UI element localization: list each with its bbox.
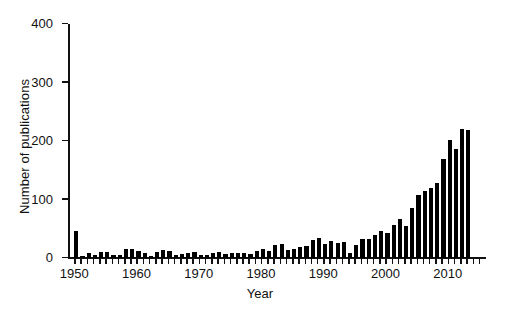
bar [217,252,221,258]
x-tick [87,259,89,264]
bar [223,254,227,258]
x-tick [280,259,282,264]
x-tick [417,259,419,264]
bar [74,231,78,258]
x-tick-label: 1960 [122,266,151,281]
bar [273,245,277,258]
bar [236,253,240,258]
y-axis-title: Number of publications [17,57,32,237]
bar [404,226,408,258]
x-tick [404,259,406,264]
bar [99,252,103,258]
bar [286,250,290,258]
x-tick [99,259,101,264]
bar [441,159,445,258]
x-tick [118,259,120,264]
x-tick [336,259,338,264]
x-tick [93,259,95,264]
x-tick [130,259,132,264]
x-tick [286,259,288,264]
bar [292,249,296,258]
bar [80,256,84,258]
bar [398,219,402,258]
x-tick [230,259,232,264]
x-tick [342,259,344,264]
x-tick [224,259,226,264]
bar [466,130,470,258]
x-tick-label: 2010 [433,266,462,281]
bar [329,241,333,258]
x-tick [273,259,275,264]
x-tick [155,259,157,264]
bar [230,253,234,258]
bar [211,253,215,258]
bar [124,249,128,258]
bar [429,188,433,258]
x-tick [143,259,145,264]
x-tick [423,259,425,264]
bar [317,238,321,258]
x-tick [136,259,138,264]
x-tick [149,259,151,264]
x-tick [448,259,450,264]
x-tick [329,259,331,264]
bar [311,240,315,258]
x-tick [180,259,182,264]
x-tick [460,259,462,264]
bar [423,191,427,258]
x-tick [410,259,412,264]
x-tick [429,259,431,264]
bar [280,244,284,258]
bar [261,249,265,258]
x-tick [186,259,188,264]
bar [360,239,364,258]
x-tick [454,259,456,264]
x-tick [236,259,238,264]
bar [118,255,122,258]
x-tick-label: 1950 [60,266,89,281]
x-tick [267,259,269,264]
x-tick [292,259,294,264]
x-tick [392,259,394,264]
x-tick [361,259,363,264]
bar [105,252,109,258]
bar [255,251,259,258]
bar [416,195,420,258]
x-tick [323,259,325,264]
bar [373,235,377,258]
x-tick [242,259,244,264]
x-tick [217,259,219,264]
x-tick [174,259,176,264]
x-tick [311,259,313,264]
x-tick [379,259,381,264]
x-tick-label: 2000 [371,266,400,281]
bar [199,255,203,259]
x-tick [74,259,76,264]
bar [460,129,464,258]
bar [130,249,134,258]
bar [336,243,340,258]
publications-per-year-bar-chart: Number of publications 0100200300400 195… [0,0,520,313]
x-tick [398,259,400,264]
x-tick [348,259,350,264]
x-tick [435,259,437,264]
bar [149,256,153,258]
x-tick [354,259,356,264]
bar [248,254,252,258]
bar [323,244,327,258]
y-tick-label: 400 [31,17,53,30]
x-tick [161,259,163,264]
bar [410,208,414,258]
x-tick [373,259,375,264]
x-tick [248,259,250,264]
bar [205,255,209,258]
x-tick [168,259,170,264]
x-tick [479,259,481,264]
x-axis-ticks: 1950196019701980199020002010 [68,259,486,281]
y-tick-label: 300 [31,75,53,88]
bar [267,251,271,258]
bar [136,251,140,258]
bar [155,252,159,258]
x-tick [192,259,194,264]
x-tick [199,259,201,264]
